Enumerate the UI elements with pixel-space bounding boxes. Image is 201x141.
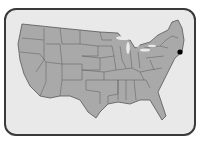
location-marker-icon[interactable] xyxy=(177,49,182,54)
us-map xyxy=(0,0,201,141)
